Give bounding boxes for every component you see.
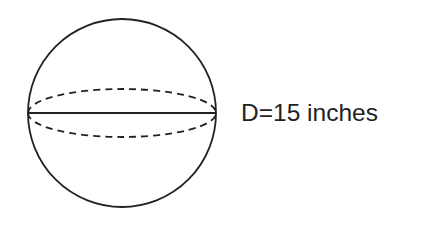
equator-back-arc: [28, 89, 216, 113]
equator-front-arc: [28, 113, 216, 137]
diameter-label: D=15 inches: [241, 101, 378, 126]
